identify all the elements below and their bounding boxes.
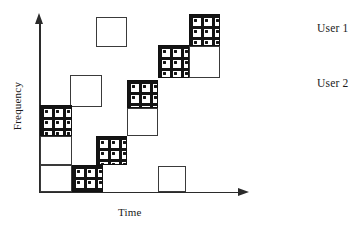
tile-user-1 xyxy=(158,166,186,192)
legend-item-user-1: User 1 xyxy=(263,12,349,44)
time-axis-label: Time xyxy=(118,206,142,218)
tile-user-2 xyxy=(189,14,220,46)
tile-user-2 xyxy=(40,105,72,136)
tile-user-1 xyxy=(96,17,127,47)
time-frequency-allocation-figure: Frequency Time User 1 User 2 xyxy=(0,0,360,232)
tile-user-1 xyxy=(40,165,72,192)
tile-user-2 xyxy=(158,45,189,78)
time-axis-arrow-icon xyxy=(238,188,249,196)
frequency-axis-arrow-icon xyxy=(35,13,43,24)
tile-user-1 xyxy=(189,46,220,78)
tile-user-2 xyxy=(72,165,103,192)
legend-swatch-user-2 xyxy=(263,67,295,99)
tile-user-1 xyxy=(40,136,72,165)
legend-item-user-2: User 2 xyxy=(263,67,349,99)
tile-user-1 xyxy=(127,108,158,136)
tile-user-2 xyxy=(96,136,127,165)
legend-label-user-1: User 1 xyxy=(317,22,349,34)
tile-user-2 xyxy=(127,80,158,108)
legend-label-user-2: User 2 xyxy=(317,77,349,89)
legend-swatch-user-1 xyxy=(263,12,295,44)
frequency-axis-label: Frequency xyxy=(11,71,23,141)
tile-user-1 xyxy=(70,75,102,107)
